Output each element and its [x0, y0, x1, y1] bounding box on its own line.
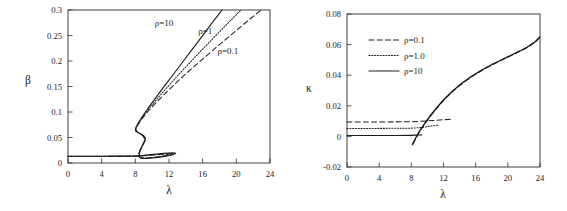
x-tick-label: 20 [232, 169, 241, 179]
x-axis-title-lambda: λ [166, 184, 172, 196]
x-tick-label: 16 [198, 169, 207, 179]
right-panel-svg: 04812162024-0.0200.020.040.060.08 ρ=0.1ρ… [283, 0, 566, 211]
plot-frame [347, 14, 540, 167]
left-panel-ticks [68, 10, 270, 163]
legend: ρ=0.1ρ=1.0ρ=10 [369, 35, 425, 76]
curve-10 [412, 37, 540, 145]
x-tick-label: 24 [536, 173, 545, 183]
y-tick-label: 0.25 [47, 31, 62, 41]
x-tick-label: 12 [439, 173, 448, 183]
legend-label: ρ=10 [404, 66, 423, 76]
curve-annotation: ρ=0.1 [218, 46, 239, 56]
left-panel-frame-group [68, 10, 270, 163]
curve-1 [68, 10, 241, 158]
x-tick-label: 8 [409, 173, 413, 183]
curve-1.0 [347, 125, 439, 128]
y-axis-title-kappa: κ [306, 82, 312, 94]
x-tick-label: 0 [66, 169, 70, 179]
x-tick-label: 4 [100, 169, 105, 179]
curve-annotation: ρ=10 [155, 18, 174, 28]
right-panel-curves [347, 37, 540, 145]
y-axis-title-beta: β [25, 74, 31, 87]
y-tick-label: 0.2 [51, 56, 62, 66]
left-panel-curves [68, 10, 261, 158]
right-panel-kappa-vs-lambda: 04812162024-0.0200.020.040.060.08 ρ=0.1ρ… [283, 0, 566, 211]
x-tick-label: 16 [471, 173, 480, 183]
x-tick-label: 0 [345, 173, 349, 183]
y-tick-label: 0.04 [326, 70, 342, 80]
y-tick-label: -0.02 [323, 162, 341, 172]
curve-1.0 [413, 37, 540, 145]
y-tick-label: 0.02 [326, 101, 341, 111]
x-tick-label: 20 [504, 173, 513, 183]
legend-label: ρ=1.0 [404, 51, 425, 61]
y-tick-label: 0.3 [51, 5, 62, 15]
right-panel-tick-labels: 04812162024-0.0200.020.040.060.08 [323, 9, 545, 183]
x-tick-label: 24 [266, 169, 275, 179]
x-tick-label: 12 [165, 169, 174, 179]
curve-10 [347, 135, 422, 136]
y-tick-label: 0.06 [326, 40, 342, 50]
y-tick-label: 0 [58, 158, 62, 168]
right-panel-ticks [347, 14, 540, 167]
left-panel-curve-labels: ρ=10ρ=1ρ=0.1 [155, 18, 239, 56]
y-tick-label: 0 [337, 132, 341, 142]
curve-0.1 [347, 119, 452, 122]
y-tick-label: 0.08 [326, 9, 341, 19]
x-axis-title-lambda: λ [440, 188, 446, 200]
curve-annotation: ρ=1 [198, 26, 212, 36]
figure-container: 0481216202400.050.10.150.20.250.3 ρ=10ρ=… [0, 0, 567, 211]
x-tick-label: 4 [377, 173, 382, 183]
y-tick-label: 0.05 [47, 133, 62, 143]
legend-label: ρ=0.1 [404, 35, 425, 45]
right-panel-frame-group [347, 14, 540, 167]
y-tick-label: 0.1 [51, 107, 62, 117]
left-panel-svg: 0481216202400.050.10.150.20.250.3 ρ=10ρ=… [0, 0, 283, 211]
plot-frame [68, 10, 270, 163]
x-tick-label: 8 [133, 169, 137, 179]
y-tick-label: 0.15 [47, 82, 62, 92]
left-panel-beta-vs-lambda: 0481216202400.050.10.150.20.250.3 ρ=10ρ=… [0, 0, 283, 211]
curve-0.1 [68, 10, 261, 158]
left-panel-tick-labels: 0481216202400.050.10.150.20.250.3 [47, 5, 275, 179]
curve-0.1 [413, 37, 540, 144]
